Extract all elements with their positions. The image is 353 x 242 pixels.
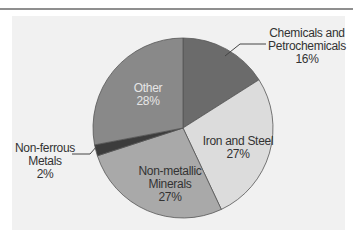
label-iron-steel: Iron and Steel 27% [196,135,280,161]
label-chemicals: Chemicals and Petrochemicals 16% [262,27,352,66]
label-other: Other 28% [118,82,178,108]
label-non-metallic: Non-metallic Minerals 27% [128,165,212,204]
label-non-ferrous: Non-ferrous Metals 2% [10,142,80,181]
